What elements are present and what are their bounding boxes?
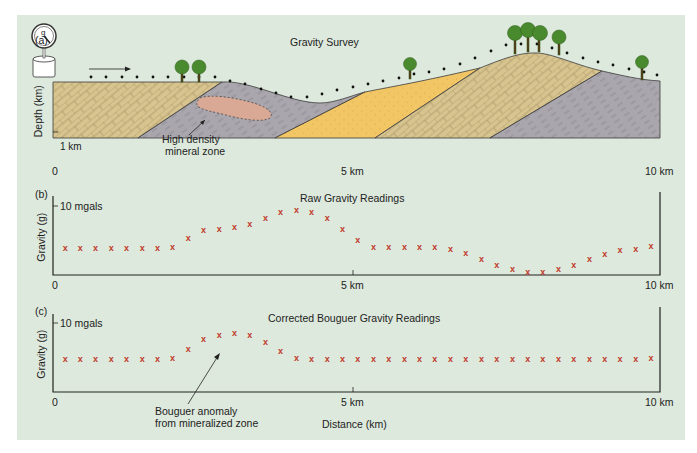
data-point-marker: x bbox=[109, 243, 114, 253]
data-point-marker: x bbox=[155, 243, 160, 253]
data-point-marker: x bbox=[432, 242, 437, 252]
data-point-marker: x bbox=[386, 242, 391, 252]
data-point-marker: x bbox=[633, 244, 638, 254]
data-point-marker: x bbox=[494, 354, 499, 364]
data-point-marker: x bbox=[63, 243, 68, 253]
data-point-marker: x bbox=[325, 354, 330, 364]
data-point-marker: x bbox=[78, 243, 83, 253]
data-point-marker: x bbox=[494, 260, 499, 270]
panel-b-xtick-5: 5 km bbox=[341, 280, 364, 291]
data-point-marker: x bbox=[232, 222, 237, 232]
anomaly-arrow bbox=[188, 356, 218, 404]
data-point-marker: x bbox=[124, 354, 129, 364]
data-point-marker: x bbox=[602, 354, 607, 364]
data-point-marker: x bbox=[355, 354, 360, 364]
data-point-marker: x bbox=[124, 243, 129, 253]
panel-b-title: Raw Gravity Readings bbox=[300, 193, 404, 204]
anomaly-label-2: from mineralized zone bbox=[155, 418, 258, 429]
panel-b-xtick-10: 10 km bbox=[645, 280, 674, 291]
data-point-marker: x bbox=[540, 354, 545, 364]
data-point-marker: x bbox=[63, 354, 68, 364]
data-point-marker: x bbox=[571, 354, 576, 364]
data-point-marker: x bbox=[355, 235, 360, 245]
data-point-marker: x bbox=[232, 328, 237, 338]
data-point-marker: x bbox=[463, 248, 468, 258]
panel-c-letter: (c) bbox=[35, 306, 47, 317]
data-point-marker: x bbox=[571, 260, 576, 270]
depth-tick-label: 1 km bbox=[60, 142, 82, 152]
data-point-marker: x bbox=[479, 254, 484, 264]
data-point-marker: x bbox=[510, 264, 515, 274]
data-point-marker: x bbox=[140, 354, 145, 364]
data-point-marker: x bbox=[93, 243, 98, 253]
raw-gravity-markers: xxxxxxxxxxxxxxxxxxxxxxxxxxxxxxxxxxxxxxx bbox=[63, 205, 654, 277]
data-point-marker: x bbox=[648, 241, 653, 251]
panel-c-xtick-10: 10 km bbox=[645, 397, 674, 408]
data-point-marker: x bbox=[633, 354, 638, 364]
data-point-marker: x bbox=[278, 346, 283, 356]
data-point-marker: x bbox=[432, 354, 437, 364]
data-point-marker: x bbox=[479, 354, 484, 364]
data-point-marker: x bbox=[402, 242, 407, 252]
data-point-marker: x bbox=[109, 354, 114, 364]
panel-a-letter: (a) bbox=[35, 35, 48, 46]
data-point-marker: x bbox=[525, 267, 530, 277]
figure-graphics: g xxxxxxxxxxxxxxxxxxxxxxxxxxxxxxxxxxxxxx… bbox=[0, 0, 697, 453]
panel-c-ylabel: Gravity (g) bbox=[36, 324, 47, 384]
panel-c-xlabel: Distance (km) bbox=[322, 419, 387, 430]
anomaly-label-1: Bouguer anomaly bbox=[155, 406, 237, 417]
panel-a-xtick-5: 5 km bbox=[341, 166, 364, 177]
data-point-marker: x bbox=[525, 354, 530, 364]
data-point-marker: x bbox=[340, 224, 345, 234]
data-point-marker: x bbox=[217, 224, 222, 234]
data-point-marker: x bbox=[263, 337, 268, 347]
data-point-marker: x bbox=[247, 330, 252, 340]
panel-b-xtick-0: 0 bbox=[52, 280, 58, 291]
data-point-marker: x bbox=[587, 254, 592, 264]
data-point-marker: x bbox=[556, 354, 561, 364]
data-point-marker: x bbox=[170, 353, 175, 363]
data-point-marker: x bbox=[417, 242, 422, 252]
data-point-marker: x bbox=[217, 330, 222, 340]
data-point-marker: x bbox=[186, 344, 191, 354]
data-point-marker: x bbox=[78, 354, 83, 364]
panel-a-ylabel: Depth (km) bbox=[33, 81, 44, 141]
data-point-marker: x bbox=[340, 354, 345, 364]
panel-c-xtick-5: 5 km bbox=[341, 397, 364, 408]
data-point-marker: x bbox=[417, 354, 422, 364]
data-point-marker: x bbox=[93, 354, 98, 364]
data-point-marker: x bbox=[402, 354, 407, 364]
data-point-marker: x bbox=[540, 267, 545, 277]
panel-c-ytick: 10 mgals bbox=[60, 318, 103, 329]
data-point-marker: x bbox=[617, 245, 622, 255]
data-point-marker: x bbox=[309, 354, 314, 364]
data-point-marker: x bbox=[170, 242, 175, 252]
data-point-marker: x bbox=[325, 213, 330, 223]
data-point-marker: x bbox=[587, 354, 592, 364]
data-point-marker: x bbox=[201, 225, 206, 235]
data-point-marker: x bbox=[617, 354, 622, 364]
data-point-marker: x bbox=[309, 207, 314, 217]
data-point-marker: x bbox=[463, 354, 468, 364]
data-point-marker: x bbox=[556, 264, 561, 274]
data-point-marker: x bbox=[186, 233, 191, 243]
data-point-marker: x bbox=[278, 207, 283, 217]
bouguer-gravity-markers: xxxxxxxxxxxxxxxxxxxxxxxxxxxxxxxxxxxxxxx bbox=[63, 328, 654, 364]
mineral-zone-label-2: mineral zone bbox=[165, 146, 225, 157]
panel-b-letter: (b) bbox=[35, 189, 48, 200]
data-point-marker: x bbox=[448, 354, 453, 364]
data-point-marker: x bbox=[371, 354, 376, 364]
data-point-marker: x bbox=[263, 213, 268, 223]
data-point-marker: x bbox=[140, 243, 145, 253]
data-point-marker: x bbox=[155, 354, 160, 364]
panel-a-xtick-0: 0 bbox=[52, 166, 58, 177]
panel-a-title: Gravity Survey bbox=[290, 37, 359, 48]
data-point-marker: x bbox=[648, 353, 653, 363]
panel-b-ylabel: Gravity (g) bbox=[36, 207, 47, 267]
panel-c-title: Corrected Bouguer Gravity Readings bbox=[268, 313, 440, 324]
data-point-marker: x bbox=[201, 334, 206, 344]
data-point-marker: x bbox=[510, 354, 515, 364]
raw-gravity-axes bbox=[53, 192, 660, 275]
panel-c-xtick-0: 0 bbox=[52, 397, 58, 408]
data-point-marker: x bbox=[294, 353, 299, 363]
